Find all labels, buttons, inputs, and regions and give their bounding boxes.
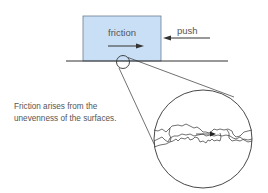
magnified-surface-view	[154, 90, 252, 188]
push-arrow-icon	[163, 36, 210, 41]
block	[83, 16, 161, 61]
magnifier-line-left	[119, 68, 155, 146]
caption: Friction arises from the unevenness of t…	[14, 101, 116, 124]
friction-label: friction	[108, 27, 136, 38]
caption-line-1: Friction arises from the	[14, 101, 116, 113]
caption-line-2: unevenness of the surfaces.	[14, 113, 116, 125]
friction-diagram: friction push	[0, 0, 268, 193]
magnifier-line-top	[128, 58, 234, 98]
push-label: push	[177, 25, 198, 36]
